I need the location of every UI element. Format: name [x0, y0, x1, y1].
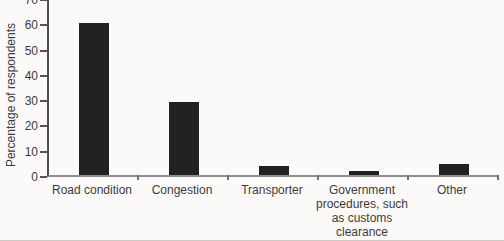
y-tick-label-20: 20: [8, 120, 38, 132]
x-tick-mark-2: [227, 175, 229, 180]
y-tick-label-40: 40: [8, 70, 38, 82]
x-tick-mark-3: [317, 175, 319, 180]
x-tick-mark-4: [407, 175, 409, 180]
bar-road-condition: [79, 23, 109, 175]
bar-congestion: [169, 102, 199, 175]
bar-other: [439, 164, 469, 175]
y-tick-mark-30: [40, 100, 47, 102]
x-category-label-other: Other: [402, 183, 502, 197]
plot-area: [47, 0, 497, 177]
y-tick-mark-10: [40, 151, 47, 153]
x-category-label-government-procedures: Government procedures, such as customs c…: [312, 183, 412, 239]
x-tick-mark-5: [497, 175, 499, 180]
y-tick-label-0: 0: [8, 171, 38, 183]
bar-government-procedures: [349, 171, 379, 175]
y-tick-mark-0: [40, 176, 47, 178]
bar-transporter: [259, 166, 289, 175]
y-tick-mark-20: [40, 125, 47, 127]
y-tick-mark-70: [40, 0, 47, 1]
y-tick-label-70: 70: [8, 0, 38, 6]
y-tick-label-60: 60: [8, 19, 38, 31]
y-tick-mark-60: [40, 24, 47, 26]
x-tick-mark-1: [137, 175, 139, 180]
x-category-label-transporter: Transporter: [222, 183, 322, 197]
x-category-label-road-condition: Road condition: [42, 183, 142, 197]
y-tick-mark-40: [40, 75, 47, 77]
y-tick-label-30: 30: [8, 95, 38, 107]
y-tick-mark-50: [40, 50, 47, 52]
y-tick-label-10: 10: [8, 146, 38, 158]
bar-chart: Percentage of respondents 01020304050607…: [0, 0, 504, 241]
x-category-label-congestion: Congestion: [132, 183, 232, 197]
y-tick-label-50: 50: [8, 45, 38, 57]
